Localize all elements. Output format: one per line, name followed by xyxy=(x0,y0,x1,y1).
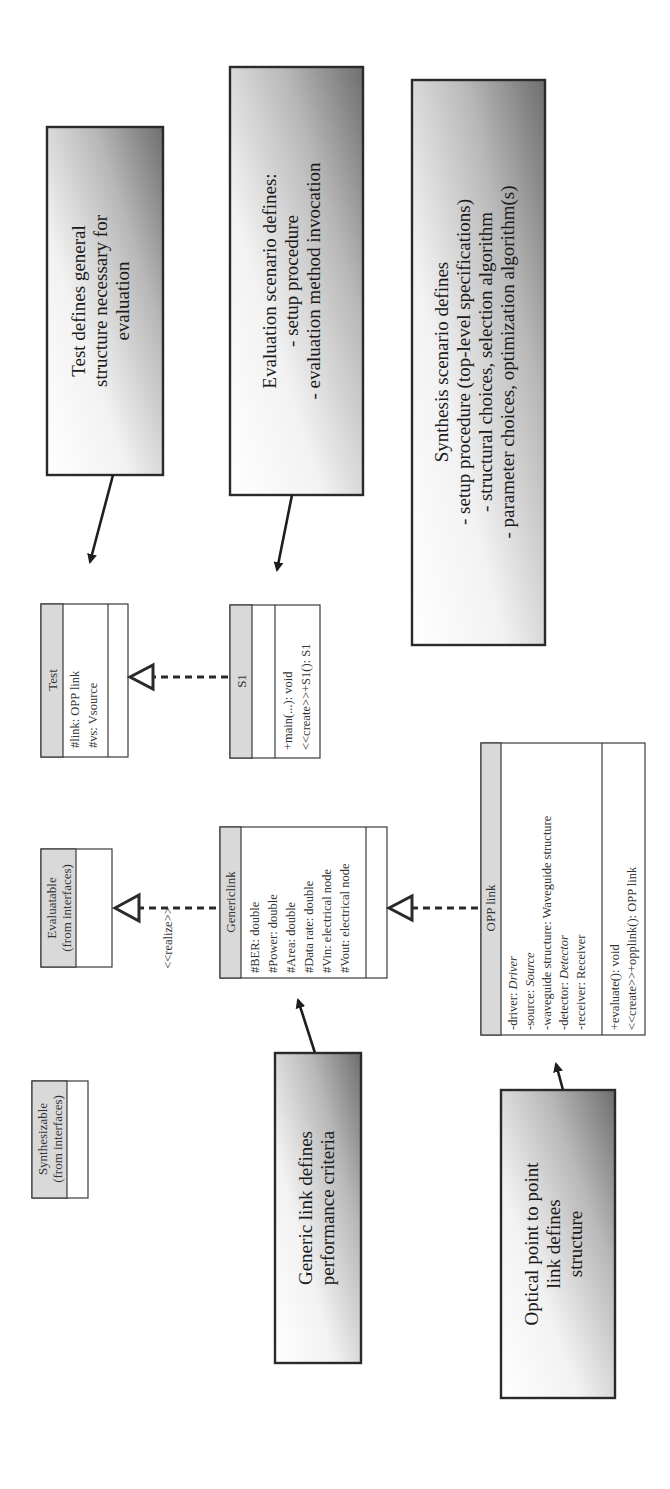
class-name: Genericlink xyxy=(223,871,238,933)
realize-stereotype-label: <<realize>> xyxy=(161,907,175,969)
uml-diagram-canvas: Test defines general structure necessary… xyxy=(0,0,670,1489)
class-opplink[interactable]: OPP link -driver: Driver -source: Source… xyxy=(481,743,645,1035)
note-line: Synthesis scenario defines xyxy=(431,262,452,463)
note-line: - evaluation method invocation xyxy=(303,162,324,399)
class-attribute: -source: Source xyxy=(523,952,537,1030)
class-attribute: #Power: double xyxy=(266,894,280,973)
note-line: Evaluation scenario defines: xyxy=(259,173,280,388)
class-test[interactable]: Test #link: OPP link #vs: Vsource xyxy=(41,604,128,757)
class-attribute: #BER: double xyxy=(248,901,262,973)
generalization-arrowhead xyxy=(389,896,412,920)
note-line: performance criteria xyxy=(317,1130,338,1285)
class-attribute: #vs: Vsource xyxy=(86,682,100,748)
interface-stereotype: (from interfaces) xyxy=(50,1095,65,1183)
class-s1[interactable]: S1 +main(...): void <<create>>+S1(): S1 xyxy=(230,605,320,758)
note-line: Test defines general xyxy=(68,225,89,377)
note-text-group: Generic link defines performance criteri… xyxy=(295,1130,338,1285)
interface-name: Synthesizable xyxy=(35,1103,50,1175)
class-genericlink[interactable]: Genericlink #BER: double #Power: double … xyxy=(220,827,387,978)
note-line: evaluation xyxy=(112,261,133,341)
note-line: - structural choices, selection algorith… xyxy=(475,212,496,512)
note-line: - parameter choices, optimization algori… xyxy=(497,186,519,539)
interface-stereotype: (from interfaces) xyxy=(59,864,74,952)
class-operation: +main(...): void xyxy=(281,671,295,750)
class-operation: <<create>>+S1(): S1 xyxy=(299,644,313,750)
class-attribute: #Data rate: double xyxy=(302,880,316,973)
note-line: - setup procedure (top-level specificati… xyxy=(453,199,475,525)
note-line: structure necessary for xyxy=(90,214,111,387)
note-synthesis-scenario: Synthesis scenario defines - setup proce… xyxy=(412,80,545,645)
interface-name: Evaluatable xyxy=(44,877,59,939)
class-operation: <<create>>+opplink(): OPP link xyxy=(625,866,639,1030)
realization-arrowhead xyxy=(130,665,153,689)
arrow-test-note-to-test xyxy=(90,475,113,562)
class-attribute: #link: OPP link xyxy=(68,670,82,748)
note-line: Generic link defines xyxy=(295,1131,316,1285)
class-attribute: -detector: Detector xyxy=(557,935,571,1030)
arrow-generic-note-to-genericlink xyxy=(298,1000,315,1053)
class-name: S1 xyxy=(234,674,249,688)
class-name: OPP link xyxy=(483,884,498,931)
note-generic-link: Generic link defines performance criteri… xyxy=(275,1053,361,1363)
interface-evaluatable[interactable]: Evaluatable (from interfaces) xyxy=(41,849,112,967)
realization-arrowhead xyxy=(115,895,139,921)
class-name: Test xyxy=(45,669,60,691)
class-attribute: #Vin: electrical node xyxy=(320,868,334,973)
note-line: - setup procedure xyxy=(281,215,302,347)
note-optical-link: Optical point to point link defines stru… xyxy=(501,1090,615,1398)
class-attribute: -driver: Driver xyxy=(506,956,520,1030)
class-attribute: -waveguide structure: Waveguide structur… xyxy=(540,815,554,1030)
note-line: link defines xyxy=(543,1199,564,1288)
arrow-eval-note-to-s1 xyxy=(277,495,292,570)
arrow-optical-note-to-opplink xyxy=(556,1064,563,1090)
class-attribute: #Area: double xyxy=(284,901,298,973)
note-test-defines: Test defines general structure necessary… xyxy=(47,127,163,475)
note-line: Optical point to point xyxy=(521,1162,542,1326)
class-attribute: -receiver: Receiver xyxy=(574,934,588,1030)
class-attribute: #Vout: electrical node xyxy=(338,863,352,973)
class-operation: +evaluate(): void xyxy=(608,943,622,1030)
note-line: structure xyxy=(565,1211,586,1277)
note-evaluation-scenario: Evaluation scenario defines: - setup pro… xyxy=(230,67,363,495)
interface-synthesizable[interactable]: Synthesizable (from interfaces) xyxy=(32,1081,88,1198)
